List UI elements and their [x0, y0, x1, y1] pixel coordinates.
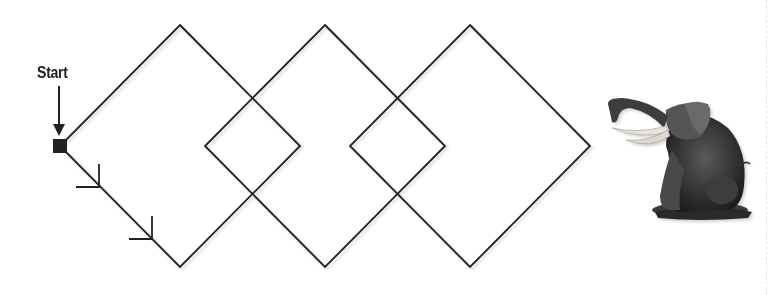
diamond-2 — [205, 25, 445, 267]
page-edge-divider — [766, 0, 768, 295]
start-marker — [53, 139, 67, 153]
diamond-1 — [60, 25, 300, 267]
elephant-image — [608, 98, 752, 220]
start-label: Start — [37, 64, 68, 82]
diamond-3 — [350, 25, 590, 267]
diamond-path-diagram — [0, 0, 776, 295]
diagram-canvas: Start — [0, 0, 776, 295]
direction-arrow-icon — [76, 164, 99, 187]
diamonds-group — [60, 25, 590, 267]
start-arrow-icon — [53, 86, 65, 136]
